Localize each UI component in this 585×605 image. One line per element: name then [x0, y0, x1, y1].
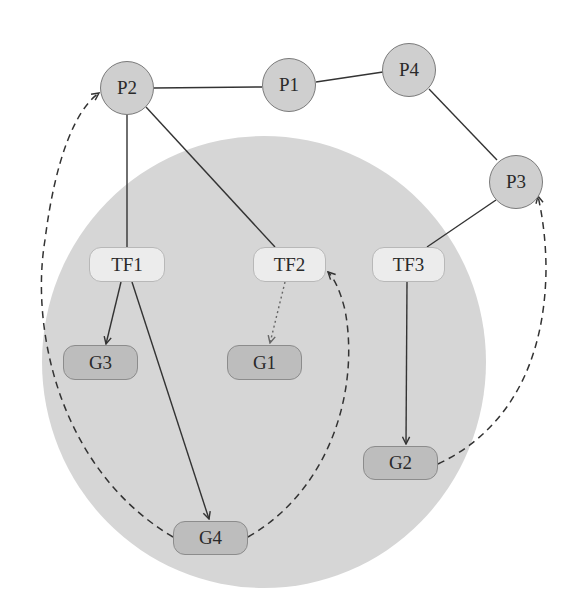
node-p1: P1	[262, 58, 316, 112]
node-g1: G1	[227, 345, 302, 380]
node-p4-label: P4	[399, 59, 419, 81]
node-tf2-label: TF2	[274, 254, 306, 276]
node-g4-label: G4	[199, 527, 222, 549]
node-p3-label: P3	[506, 171, 526, 193]
regulatory-network-diagram: P2 P1 P4 P3 TF1 TF2 TF3 G3 G1 G2 G4	[0, 0, 585, 605]
node-tf1: TF1	[89, 247, 165, 282]
node-g2: G2	[363, 446, 438, 480]
edge-p1-p4	[316, 72, 383, 82]
node-p2: P2	[100, 61, 154, 115]
edge-p4-p3	[429, 89, 497, 160]
node-tf3-label: TF3	[393, 254, 425, 276]
node-p4: P4	[382, 43, 436, 97]
edge-tf3-g2	[406, 282, 407, 444]
node-tf3: TF3	[372, 247, 445, 282]
node-tf2: TF2	[253, 247, 326, 282]
node-tf1-label: TF1	[111, 254, 143, 276]
node-p2-label: P2	[117, 77, 137, 99]
node-g3: G3	[63, 345, 138, 380]
edge-p2-p1	[154, 87, 262, 88]
node-p1-label: P1	[279, 74, 299, 96]
node-g1-label: G1	[253, 352, 276, 374]
node-g2-label: G2	[389, 452, 412, 474]
node-p3: P3	[489, 155, 543, 209]
node-g3-label: G3	[89, 352, 112, 374]
node-g4: G4	[173, 521, 248, 555]
